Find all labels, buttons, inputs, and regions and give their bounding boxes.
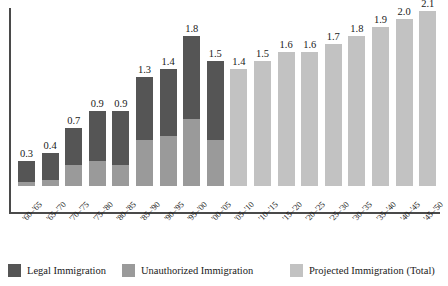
- bar-stack: [278, 52, 295, 186]
- bar-stack: [348, 36, 365, 186]
- bar-value-label: 1.4: [153, 56, 184, 67]
- bar-stack: [65, 128, 82, 186]
- bar-segment-legal: [207, 61, 224, 140]
- bar-stack: [372, 27, 389, 186]
- bar-segment-legal: [18, 161, 35, 182]
- bar-stack: [18, 161, 35, 186]
- bar-segment-projected: [301, 52, 318, 186]
- bar-stack: [183, 36, 200, 186]
- bar-value-label: 0.9: [105, 98, 136, 109]
- bar-segment-projected: [254, 61, 271, 186]
- bar-segment-unauthorized: [18, 182, 35, 186]
- bar-segment-unauthorized: [65, 165, 82, 186]
- bar-segment-projected: [230, 69, 247, 186]
- bar-value-label: 0.7: [58, 115, 89, 126]
- bar-value-label: 0.4: [35, 140, 66, 151]
- legend-item[interactable]: Unauthorized Immigration: [122, 262, 253, 278]
- bar-segment-legal: [136, 77, 153, 140]
- bar-stack: [396, 19, 413, 186]
- bar-segment-unauthorized: [160, 136, 177, 186]
- legend-label: Projected Immigration (Total): [309, 265, 435, 276]
- legend-swatch-icon: [122, 264, 135, 277]
- stacked-bar-chart: 0.30.40.70.90.91.31.41.81.51.41.51.61.61…: [0, 0, 448, 286]
- bar-stack: [254, 61, 271, 186]
- bar-segment-legal: [160, 69, 177, 136]
- bar-segment-projected: [372, 27, 389, 186]
- bar-segment-projected: [325, 44, 342, 186]
- y-axis-line: [9, 8, 11, 214]
- bar-stack: [419, 11, 436, 186]
- bar-segment-projected: [278, 52, 295, 186]
- legend-label: Unauthorized Immigration: [141, 265, 253, 276]
- bar-segment-unauthorized: [42, 180, 59, 186]
- bar-stack: [136, 77, 153, 186]
- bar-segment-unauthorized: [112, 165, 129, 186]
- bar-stack: [160, 69, 177, 186]
- bar-segment-legal: [112, 111, 129, 165]
- bar-segment-unauthorized: [207, 140, 224, 186]
- bar-stack: [112, 111, 129, 186]
- bar-stack: [230, 69, 247, 186]
- bar-stack: [325, 44, 342, 186]
- bar-segment-legal: [89, 111, 106, 161]
- bar-segment-unauthorized: [136, 140, 153, 186]
- chart-legend: Legal ImmigrationUnauthorized Immigratio…: [0, 262, 448, 284]
- bar-segment-legal: [42, 153, 59, 181]
- bar-segment-unauthorized: [89, 161, 106, 186]
- bar-segment-projected: [348, 36, 365, 186]
- bar-stack: [301, 52, 318, 186]
- legend-item[interactable]: Legal Immigration: [8, 262, 106, 278]
- bar-stack: [207, 61, 224, 186]
- bar-segment-projected: [419, 11, 436, 186]
- bar-segment-legal: [183, 36, 200, 119]
- legend-swatch-icon: [290, 264, 303, 277]
- bar-value-label: 1.8: [176, 23, 207, 34]
- x-tick-label: '45–'50: [421, 199, 445, 223]
- bar-stack: [89, 111, 106, 186]
- legend-label: Legal Immigration: [27, 265, 106, 276]
- bar-stack: [42, 153, 59, 186]
- bar-segment-projected: [396, 19, 413, 186]
- bar-segment-legal: [65, 128, 82, 166]
- plot-area: 0.30.40.70.90.91.31.41.81.51.41.51.61.61…: [0, 0, 448, 258]
- bar-value-label: 2.1: [412, 0, 443, 9]
- legend-item[interactable]: Projected Immigration (Total): [290, 262, 435, 278]
- bar-segment-unauthorized: [183, 119, 200, 186]
- legend-swatch-icon: [8, 264, 21, 277]
